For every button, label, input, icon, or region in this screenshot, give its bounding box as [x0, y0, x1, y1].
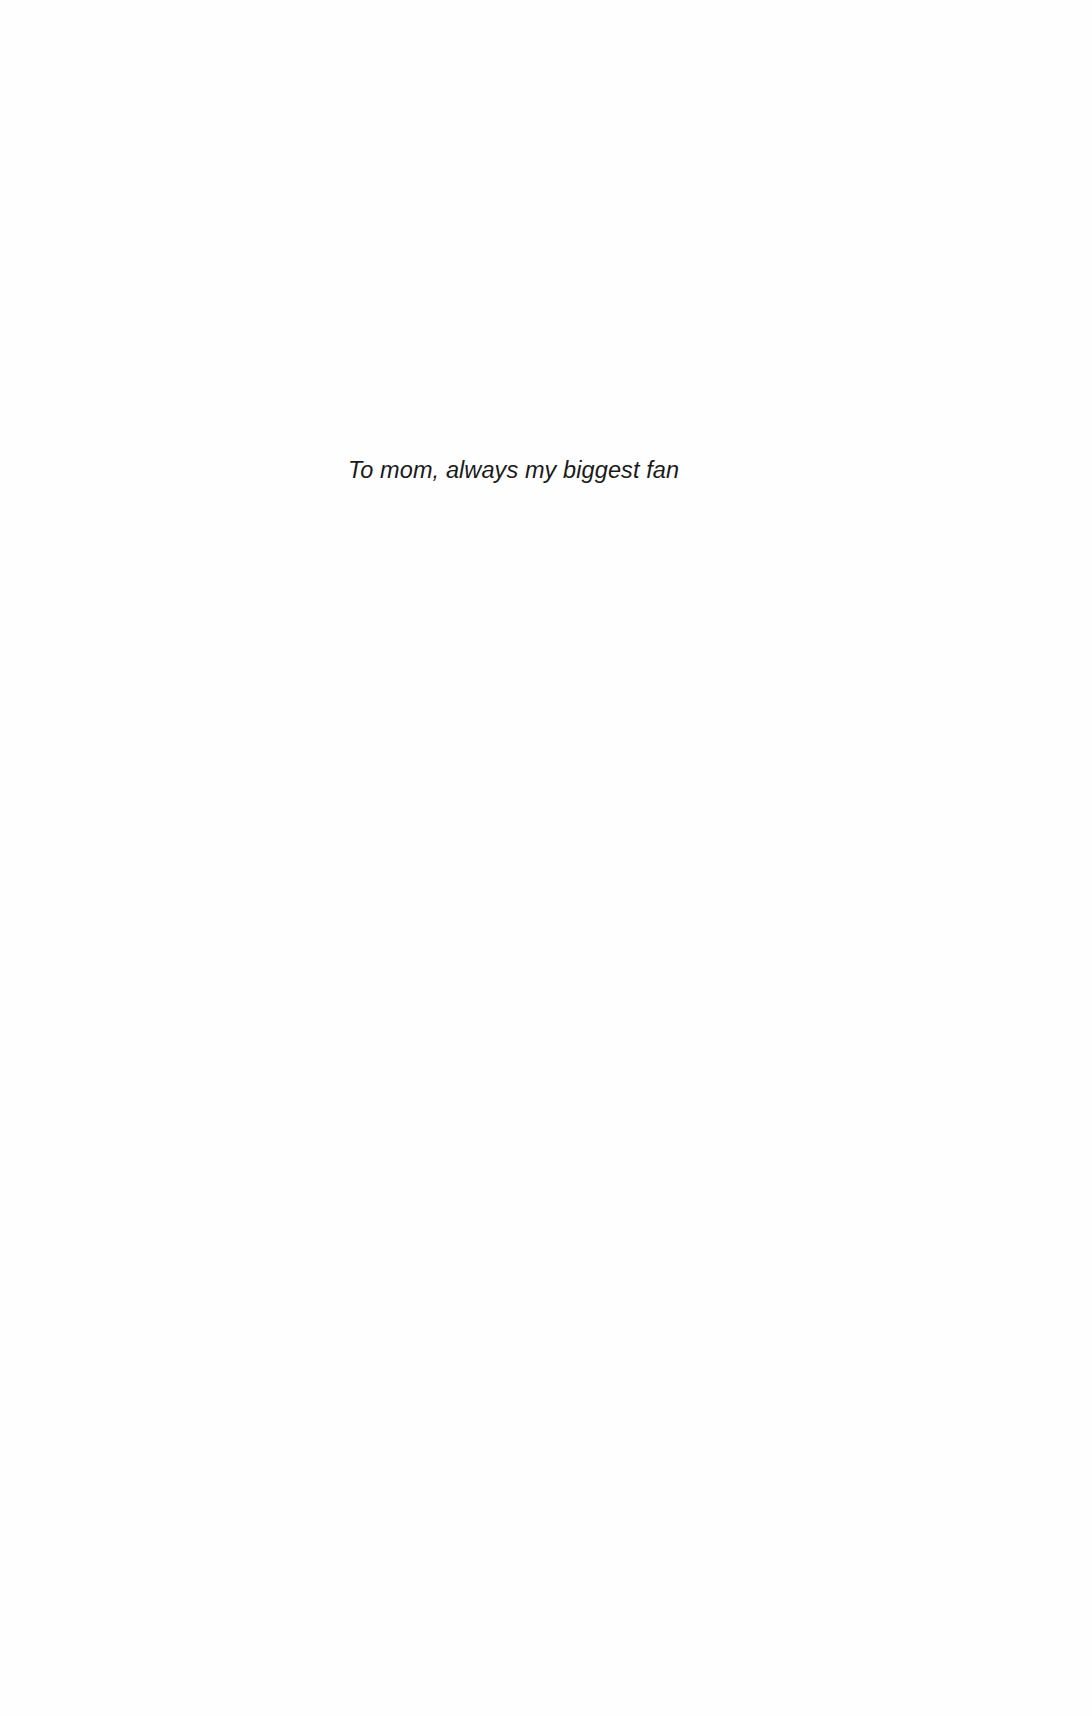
book-page: To mom, always my biggest fan: [0, 0, 1092, 1716]
dedication-text: To mom, always my biggest fan: [348, 454, 679, 486]
